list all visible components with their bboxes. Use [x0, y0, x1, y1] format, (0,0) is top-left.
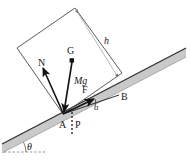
incline-angle-label: θ [27, 141, 32, 152]
pressure-point-label: P [75, 119, 81, 130]
inclined-plane-diagram-canvas: θ h G Mg N F [0, 0, 190, 160]
center-of-gravity-marker [70, 58, 74, 62]
pivot-label: A [59, 119, 67, 130]
applied-force-label: F [82, 84, 88, 95]
force-angle-label: a [94, 102, 99, 112]
upper-contact-label: B [121, 91, 128, 102]
pivot-point: A [59, 119, 67, 130]
theta-angle-arc [24, 142, 27, 152]
physics-diagram-figure: θ h G Mg N F [0, 0, 190, 160]
center-of-gravity-label: G [67, 45, 74, 56]
normal-force-label: N [38, 57, 45, 68]
upper-contact-point: B [121, 91, 128, 102]
height-label: h [104, 35, 109, 46]
